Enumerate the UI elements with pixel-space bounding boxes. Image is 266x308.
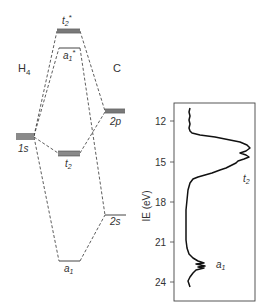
level-t2-star: [57, 29, 80, 33]
level-t2: [58, 151, 80, 156]
c-2s-label: 2s: [109, 216, 121, 227]
a1-star-label: a1*: [63, 48, 76, 62]
level-c-2p: [105, 109, 125, 113]
spectrum-a1-peak-label: a1: [216, 259, 226, 271]
h4-label: H4: [18, 62, 31, 77]
spectrum-t2-peak-label: t2: [243, 173, 250, 185]
level-h4-1s: [16, 133, 34, 140]
tick-18: 18: [155, 197, 167, 208]
c-label: C: [113, 62, 121, 74]
mo-diagram-figure: H4 C t2* a1* 2p 1s: [0, 0, 266, 308]
correlation-lines: [34, 31, 105, 261]
c-2p-label: 2p: [109, 116, 122, 127]
spectrum-ylabel: IE (eV): [141, 190, 152, 221]
tick-21: 21: [155, 237, 167, 248]
spectrum-axis-ticks: [170, 121, 174, 282]
tick-12: 12: [155, 116, 167, 127]
t2-label: t2: [65, 158, 72, 170]
tick-24: 24: [155, 277, 167, 288]
a1-label: a1: [64, 263, 74, 275]
h4-1s-label: 1s: [18, 143, 29, 154]
tick-15: 15: [155, 157, 167, 168]
t2-star-label: t2*: [62, 13, 72, 27]
